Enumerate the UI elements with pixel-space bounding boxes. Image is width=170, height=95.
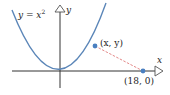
diagram-canvas: y = x2 y x (x, y) (18, 0) <box>0 0 170 95</box>
x-axis-label: x <box>157 55 162 65</box>
y-axis <box>55 5 65 88</box>
fixed-point-label: (18, 0) <box>124 76 154 86</box>
x-axis <box>12 66 163 76</box>
y-axis-arrow-icon <box>55 5 65 12</box>
distance-segment <box>95 46 143 71</box>
point-on-curve-label: (x, y) <box>100 38 123 48</box>
x-axis-arrow-icon <box>155 66 163 76</box>
point-on-curve <box>93 44 98 49</box>
curve-label: y = x2 <box>17 8 45 20</box>
y-axis-label: y <box>65 5 72 15</box>
fixed-point <box>141 69 146 74</box>
